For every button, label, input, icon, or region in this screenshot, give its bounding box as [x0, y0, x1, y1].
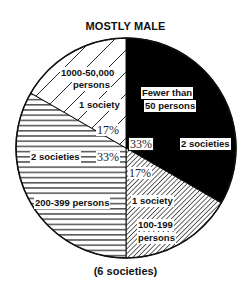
label-black-pct: 33% — [128, 137, 154, 151]
label-slash-persons: persons — [72, 79, 111, 91]
label-back-count: 1 society — [131, 195, 174, 207]
label-200-399: 200-399 persons — [34, 197, 110, 209]
label-1000-50000: 1000-50,000 — [60, 67, 115, 79]
label-fewer-than: Fewer than — [141, 87, 193, 99]
label-slash-count: 1 society — [78, 99, 121, 111]
label-slash-pct: 17% — [96, 124, 120, 136]
label-50-persons: 50 persons — [144, 100, 196, 112]
label-back-pct: 17% — [128, 167, 152, 179]
label-100-199: 100-199 — [137, 219, 174, 231]
label-horiz-pct: 33% — [96, 151, 120, 163]
label-black-count: 2 societies — [180, 138, 231, 150]
chart-caption: (6 societies) — [0, 265, 251, 277]
label-horiz-count: 2 societies — [30, 151, 81, 163]
label-back-persons: persons — [137, 232, 176, 244]
